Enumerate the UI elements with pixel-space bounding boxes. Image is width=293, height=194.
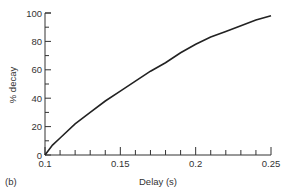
x-axis-label: Delay (s) [139, 176, 177, 187]
y-tick-label: 80 [31, 36, 42, 47]
x-tick-label: 0.25 [262, 158, 281, 169]
decay-curve [45, 16, 271, 155]
axes: 0204060801000.10.150.20.25 [26, 8, 280, 170]
chart: 0204060801000.10.150.20.25 % decay Delay… [0, 0, 293, 194]
x-tick-label: 0.1 [38, 158, 51, 169]
y-tick-label: 20 [31, 121, 42, 132]
y-tick-label: 60 [31, 64, 42, 75]
x-tick-label: 0.15 [111, 158, 130, 169]
x-tick-label: 0.2 [189, 158, 202, 169]
panel-label: (b) [5, 176, 17, 187]
y-tick-label: 40 [31, 93, 42, 104]
y-tick-label: 100 [26, 8, 42, 19]
y-axis-label: % decay [7, 67, 18, 104]
